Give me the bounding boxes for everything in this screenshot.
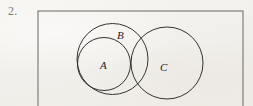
set-label-a: A: [100, 60, 107, 71]
figure-border-rectangle: [38, 11, 243, 106]
problem-number-label: 2.: [8, 5, 17, 17]
set-label-c: C: [160, 62, 167, 73]
venn-diagram-figure: 2. A B C: [0, 0, 253, 106]
venn-diagram-canvas: [0, 0, 253, 106]
set-label-b: B: [117, 30, 124, 41]
